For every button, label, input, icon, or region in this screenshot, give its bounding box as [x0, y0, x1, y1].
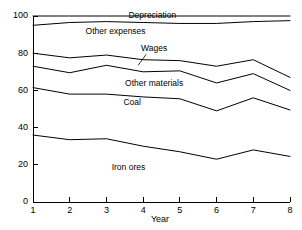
y-tick-label: 100 [13, 10, 28, 20]
band-label-other-expenses: Other expenses [86, 26, 146, 36]
band-label-coal: Coal [123, 97, 141, 107]
y-axis-tick-labels: 020406080100 [13, 10, 28, 206]
x-tick-label: 6 [214, 205, 219, 215]
x-tick-label: 7 [251, 205, 256, 215]
y-tick-label: 80 [18, 48, 28, 58]
y-tick-label: 60 [18, 85, 28, 95]
y-tick-label: 20 [18, 159, 28, 169]
x-tick-label: 5 [177, 205, 182, 215]
cost-structure-band-chart: 020406080100 12345678 Year DepreciationO… [0, 0, 302, 230]
x-axis-title: Year [151, 214, 169, 224]
chart-container: 020406080100 12345678 Year DepreciationO… [0, 0, 302, 230]
x-tick-label: 2 [67, 205, 72, 215]
y-tick-label: 40 [18, 122, 28, 132]
y-axis-ticks [33, 16, 38, 202]
x-tick-label: 3 [104, 205, 109, 215]
x-tick-label: 4 [141, 205, 146, 215]
band-label-depreciation: Depreciation [128, 10, 176, 20]
x-tick-label: 1 [30, 205, 35, 215]
band-labels: DepreciationOther expensesWagesOther mat… [86, 10, 184, 172]
band-label-other-materials: Other materials [125, 78, 183, 88]
series-line-coal-lower-boundary [33, 135, 290, 159]
x-axis-ticks [33, 197, 290, 202]
band-label-wages: Wages [141, 43, 167, 53]
x-tick-label: 8 [287, 205, 292, 215]
y-tick-label: 0 [23, 196, 28, 206]
series-line-depreciation-lower-boundary [33, 21, 290, 26]
series-line-other-materials-lower-boundary [33, 88, 290, 111]
band-label-iron-ores: Iron ores [112, 162, 146, 172]
